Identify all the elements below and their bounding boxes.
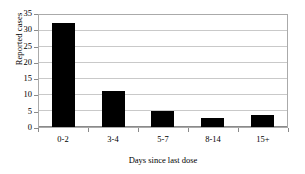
y-tick: 10 (0, 95, 38, 96)
y-tick-label: 10 (24, 89, 33, 100)
x-axis-tick-labels: 0-23-45-78-1415+ (38, 134, 288, 144)
y-tick-label: 25 (24, 41, 33, 52)
x-axis-title: Days since last dose (38, 155, 288, 165)
bar-chart: Reported cases 05101520253035 0-23-45-78… (0, 0, 305, 174)
x-tick-mark (88, 128, 89, 132)
bar-slot (237, 15, 287, 127)
x-tick-mark (38, 128, 39, 132)
bar (151, 111, 174, 127)
bar (52, 23, 75, 127)
x-tick-label: 3-4 (88, 134, 138, 144)
y-tick-label: 15 (24, 73, 33, 84)
bar-slot (39, 15, 89, 127)
x-tick-mark (188, 128, 189, 132)
bar-slot (138, 15, 188, 127)
bar (102, 91, 125, 127)
x-tick-mark (288, 128, 289, 132)
plot-area (38, 14, 288, 128)
bar-slot (188, 15, 238, 127)
x-axis-tick-marks (38, 128, 288, 132)
bar (251, 115, 274, 127)
y-tick: 20 (0, 63, 38, 64)
y-tick-label: 20 (24, 57, 33, 68)
y-tick: 5 (0, 112, 38, 113)
x-tick-label: 5-7 (138, 134, 188, 144)
bar-series (39, 15, 287, 127)
y-tick: 25 (0, 47, 38, 48)
bar-slot (89, 15, 139, 127)
y-axis-tick-labels: 05101520253035 (0, 14, 38, 128)
x-tick-label: 15+ (238, 134, 288, 144)
y-tick-label: 0 (28, 122, 32, 133)
x-tick-mark (138, 128, 139, 132)
bar (201, 118, 224, 127)
y-tick: 15 (0, 79, 38, 80)
x-tick-mark (238, 128, 239, 132)
y-tick-label: 35 (24, 8, 33, 19)
x-tick-label: 0-2 (38, 134, 88, 144)
y-tick: 30 (0, 30, 38, 31)
x-tick-label: 8-14 (188, 134, 238, 144)
y-tick: 35 (0, 14, 38, 15)
y-tick-label: 5 (28, 106, 32, 117)
y-tick: 0 (0, 128, 38, 129)
y-tick-label: 30 (24, 24, 33, 35)
